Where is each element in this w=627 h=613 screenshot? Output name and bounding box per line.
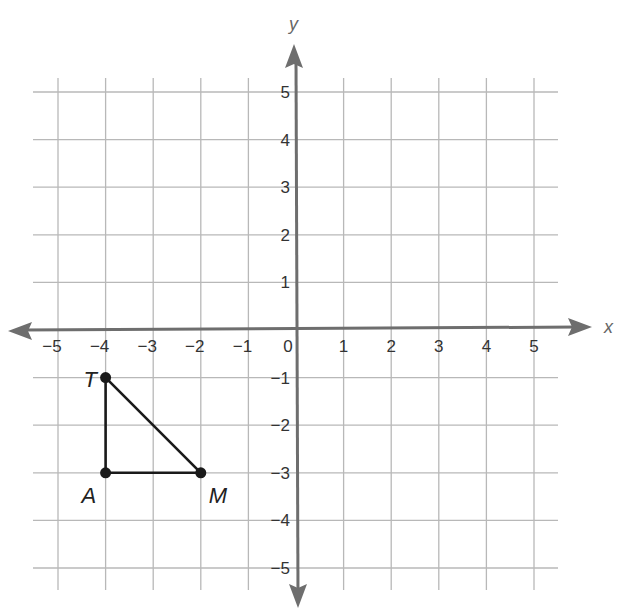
vertex-label-t: T (84, 367, 99, 392)
x-tick-label: −5 (42, 337, 61, 356)
x-tick-label: 4 (482, 337, 491, 356)
y-axis-up-arrow-icon (285, 44, 303, 68)
x-axis-label: x (603, 317, 614, 337)
y-tick-label: −3 (271, 464, 290, 483)
vertex-label-a: A (80, 483, 97, 508)
x-tick-label: 1 (339, 337, 348, 356)
y-axis-line (296, 60, 298, 595)
y-tick-label: −1 (271, 369, 290, 388)
coordinate-plane: −5−4−3−2−1012345−5−4−3−2−112345 TAM x y (0, 0, 627, 613)
y-tick-label: 4 (281, 131, 290, 150)
vertex-label-m: M (209, 483, 228, 508)
x-tick-label: 0 (283, 337, 292, 356)
y-axis-label: y (287, 14, 299, 34)
y-tick-label: 2 (281, 226, 290, 245)
y-tick-label: −5 (271, 559, 290, 578)
y-tick-label: −4 (271, 511, 290, 530)
y-tick-label: 3 (281, 178, 290, 197)
y-tick-label: −2 (271, 416, 290, 435)
y-tick-label: 5 (281, 83, 290, 102)
x-tick-label: 5 (529, 337, 538, 356)
x-tick-label: −3 (138, 337, 157, 356)
x-tick-label: 3 (434, 337, 443, 356)
x-tick-label: −4 (90, 337, 109, 356)
x-tick-label: −1 (233, 337, 252, 356)
x-tick-label: −2 (185, 337, 204, 356)
x-tick-label: 2 (386, 337, 395, 356)
axes (8, 44, 592, 608)
vertex-point-a (100, 467, 111, 478)
vertex-point-m (195, 467, 206, 478)
vertex-point-t (100, 372, 111, 383)
y-tick-label: 1 (281, 273, 290, 292)
